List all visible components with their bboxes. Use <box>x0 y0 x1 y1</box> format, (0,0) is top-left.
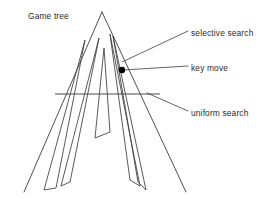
outer-triangle-right-edge <box>102 12 186 192</box>
outer-triangle <box>24 12 186 192</box>
annotation-key-move: key move <box>191 63 228 73</box>
leader-line-uniform-search <box>147 93 188 111</box>
diagram-canvas: Game tree selective search key move unif… <box>0 0 278 199</box>
selective-search-spikes <box>44 34 146 190</box>
key-move-marker <box>119 67 125 73</box>
spike-3 <box>95 48 110 138</box>
outer-triangle-left-edge <box>24 12 102 192</box>
spike-2 <box>61 38 99 186</box>
game-tree-label: Game tree <box>28 11 69 21</box>
annotation-uniform-search: uniform search <box>191 108 249 118</box>
annotation-selective-search: selective search <box>191 28 253 38</box>
leader-line-key-move <box>123 66 188 70</box>
leader-lines <box>122 31 188 111</box>
leader-line-selective-search <box>122 31 188 62</box>
spike-4 <box>110 34 140 186</box>
spike-5 <box>113 36 146 190</box>
